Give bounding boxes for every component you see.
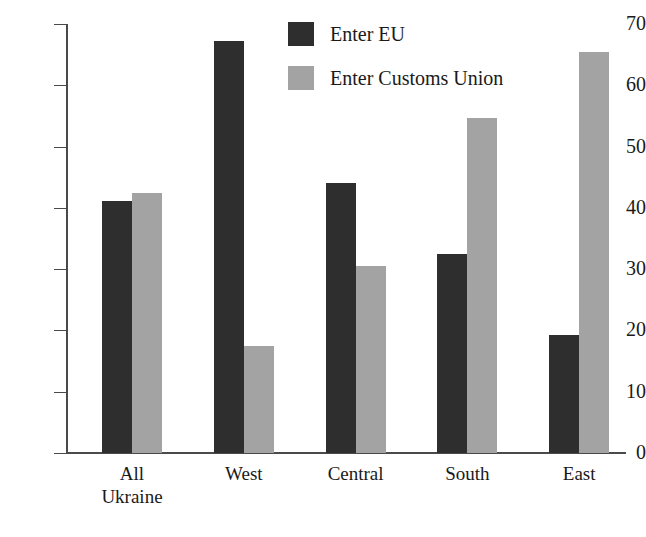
x-axis-category-label-line: Central: [296, 462, 416, 485]
legend-swatch-icon-enter-customs-union: [288, 66, 314, 90]
y-axis-tick: [54, 85, 66, 86]
bar: [579, 52, 609, 453]
bar: [356, 266, 386, 453]
legend-label-enter-eu: Enter EU: [330, 22, 405, 46]
y-axis-tick: [54, 392, 66, 393]
bar: [244, 346, 274, 453]
x-axis-category-label-line: All: [72, 462, 192, 485]
y-axis-tick: [54, 24, 66, 25]
bar: [467, 118, 497, 453]
legend: Enter EU Enter Customs Union: [288, 22, 503, 110]
legend-swatch-icon-enter-eu: [288, 22, 314, 46]
x-axis-category-label-line: Ukraine: [72, 485, 192, 508]
x-axis-category-label: South: [407, 462, 527, 485]
bar: [132, 193, 162, 453]
bar: [326, 183, 356, 453]
y-axis-tick: [54, 208, 66, 209]
x-axis-category-label: Central: [296, 462, 416, 485]
bar: [102, 201, 132, 453]
bar: [437, 254, 467, 453]
y-axis-tick: [54, 330, 66, 331]
x-axis-category-label-line: East: [519, 462, 639, 485]
x-axis-category-label: East: [519, 462, 639, 485]
x-axis-category-label-line: West: [184, 462, 304, 485]
x-axis-category-label: West: [184, 462, 304, 485]
legend-item-enter-customs-union: Enter Customs Union: [288, 66, 503, 90]
bar: [214, 41, 244, 453]
legend-item-enter-eu: Enter EU: [288, 22, 503, 46]
y-axis-tick: [54, 147, 66, 148]
legend-label-enter-customs-union: Enter Customs Union: [330, 66, 503, 90]
bar: [549, 335, 579, 453]
x-axis-category-label-line: South: [407, 462, 527, 485]
y-axis-tick: [54, 269, 66, 270]
x-axis-category-label: AllUkraine: [72, 462, 192, 508]
bar-chart: 010203040506070 AllUkraineWestCentralSou…: [0, 0, 646, 537]
y-axis-tick: [54, 453, 66, 454]
